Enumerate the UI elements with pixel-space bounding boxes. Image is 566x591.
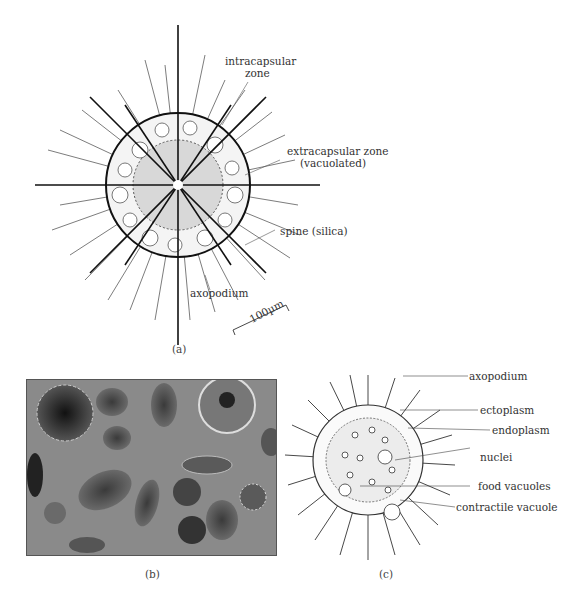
label-intracapsular-zone-1: intracapsular: [225, 55, 296, 67]
label-axopodium-a: axopodium: [190, 287, 248, 299]
label-spine-silica: spine (silica): [280, 225, 348, 237]
label-intracapsular-zone-2: zone: [245, 67, 270, 79]
label-extracapsular-zone-2: (vacuolated): [300, 157, 366, 169]
caption-c: (c): [379, 568, 393, 580]
label-ectoplasm: ectoplasm: [480, 404, 534, 416]
label-nuclei: nuclei: [480, 451, 512, 463]
label-extracapsular-zone-1: extracapsular zone: [287, 145, 388, 157]
caption-a: (a): [172, 343, 186, 355]
panel-a: intracapsular zone extracapsular zone (v…: [0, 0, 566, 370]
label-axopodium-c: axopodium: [469, 370, 527, 382]
label-endoplasm: endoplasm: [492, 424, 550, 436]
label-contractile-vacuole: contractile vacuole: [456, 501, 558, 513]
panel-c: axopodium ectoplasm endoplasm nuclei foo…: [0, 370, 566, 591]
label-food-vacuoles: food vacuoles: [478, 480, 551, 492]
